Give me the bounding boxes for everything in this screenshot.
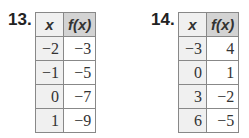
cell-fx: −7 [64,85,96,109]
cell-fx: −9 [64,109,96,133]
table-row: −34 [179,37,239,61]
cell-fx: 4 [207,37,239,61]
cell-x: −3 [179,37,207,61]
problem-13-table: xf(x) −2−3 −1−5 0−7 1−9 [35,12,96,133]
cell-x: 3 [179,85,207,109]
header-fx: f(x) [207,13,239,37]
table-row: 01 [179,61,239,85]
table-row: 6−5 [179,109,239,133]
table-row: −1−5 [36,61,96,85]
cell-fx: 1 [207,61,239,85]
cell-x: −1 [36,61,64,85]
table-row: 1−9 [36,109,96,133]
cell-fx: −2 [207,85,239,109]
problem-14-table: xf(x) −34 01 3−2 6−5 [178,12,239,133]
header-fx: f(x) [64,13,96,37]
cell-fx: −3 [64,37,96,61]
header-x: x [36,13,64,37]
cell-x: 6 [179,109,207,133]
cell-x: 0 [179,61,207,85]
table-row: −2−3 [36,37,96,61]
cell-x: −2 [36,37,64,61]
cell-x: 1 [36,109,64,133]
cell-x: 0 [36,85,64,109]
cell-fx: −5 [64,61,96,85]
header-x: x [179,13,207,37]
table-row: 0−7 [36,85,96,109]
table-row: 3−2 [179,85,239,109]
cell-fx: −5 [207,109,239,133]
problem-14-number: 14. [151,10,175,30]
problem-13-number: 13. [8,10,32,30]
